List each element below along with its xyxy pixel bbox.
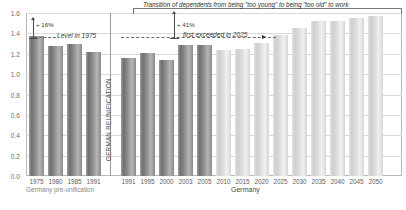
x-tick-2040: 2040 bbox=[330, 178, 344, 185]
gridline bbox=[26, 135, 402, 136]
x-tick-2000: 2000 bbox=[159, 178, 173, 185]
bar-1980 bbox=[48, 46, 63, 176]
gridline bbox=[26, 95, 402, 96]
pct-right-label: + 41% bbox=[177, 21, 195, 28]
x-tick-1991-pre: 1991 bbox=[86, 178, 100, 185]
bar-2040 bbox=[330, 21, 345, 176]
x-tick-2030: 2030 bbox=[292, 178, 306, 185]
arrow-right-stem bbox=[174, 14, 175, 38]
x-tick-2045: 2045 bbox=[349, 178, 363, 185]
arrow-right-cap bbox=[170, 38, 179, 39]
transition-bracket bbox=[133, 8, 402, 14]
x-tick-1980: 1980 bbox=[48, 178, 62, 185]
x-tick-2035: 2035 bbox=[311, 178, 325, 185]
x-tick-2005: 2005 bbox=[197, 178, 211, 185]
gridline bbox=[26, 54, 402, 55]
x-tick-2003: 2003 bbox=[178, 178, 192, 185]
x-axis-label-germany: Germany bbox=[231, 186, 260, 193]
x-tick-2015: 2015 bbox=[235, 178, 249, 185]
y-tick-label: 0.6 bbox=[0, 111, 20, 118]
bar-2010 bbox=[216, 50, 231, 176]
bar-2025 bbox=[273, 35, 288, 176]
gridline bbox=[26, 156, 402, 157]
y-tick-label: 1.6 bbox=[0, 10, 20, 17]
y-tick-label: 0.0 bbox=[0, 173, 20, 180]
x-tick-1991: 1991 bbox=[121, 178, 135, 185]
bar-1975 bbox=[29, 36, 44, 176]
x-tick-1975: 1975 bbox=[29, 178, 43, 185]
bar-2005 bbox=[197, 45, 212, 176]
y-tick-label: 0.2 bbox=[0, 152, 20, 159]
bar-2015 bbox=[235, 49, 250, 176]
bar-1985 bbox=[67, 44, 82, 176]
bar-2045 bbox=[349, 18, 364, 176]
arrow-right-2025-icon bbox=[262, 35, 266, 39]
arrow-left-cap bbox=[29, 38, 38, 39]
bar-1995 bbox=[140, 53, 155, 176]
level-1975-label: Level in 1975 bbox=[57, 32, 96, 39]
pct-left-label: + 16% bbox=[36, 21, 54, 28]
bar-1991-pre bbox=[86, 52, 101, 176]
first-exceeded-label: first exceeded in 2025 bbox=[183, 31, 248, 38]
y-tick-label: 1.0 bbox=[0, 71, 20, 78]
x-tick-1985: 1985 bbox=[67, 178, 81, 185]
bar-2035 bbox=[311, 21, 326, 176]
y-tick-label: 0.4 bbox=[0, 132, 20, 139]
bar-2000 bbox=[159, 60, 174, 176]
bar-2020 bbox=[254, 43, 269, 176]
x-tick-2010: 2010 bbox=[216, 178, 230, 185]
bar-1991 bbox=[121, 58, 136, 176]
y-tick-label: 1.4 bbox=[0, 30, 20, 37]
arrow-left-stem bbox=[33, 20, 34, 38]
x-tick-1995: 1995 bbox=[140, 178, 154, 185]
bar-2003 bbox=[178, 45, 193, 176]
x-tick-2050: 2050 bbox=[368, 178, 382, 185]
y-tick-label: 0.8 bbox=[0, 91, 20, 98]
x-tick-2025: 2025 bbox=[273, 178, 287, 185]
reunification-label: GERMAN REUNIFICATION bbox=[105, 78, 112, 161]
y-tick-label: 1.2 bbox=[0, 50, 20, 57]
chart-root: 1.6 1.4 1.2 1.0 0.8 0.6 0.4 0.2 0.0 bbox=[0, 0, 406, 210]
x-tick-2020: 2020 bbox=[254, 178, 268, 185]
gridline bbox=[26, 115, 402, 116]
bar-2050 bbox=[368, 16, 383, 176]
group-label-pre-unification: Germany pre-unification bbox=[26, 186, 94, 193]
gridline bbox=[26, 74, 402, 75]
bar-2030 bbox=[292, 28, 307, 176]
transition-note: Transition of dependents from being "too… bbox=[141, 1, 351, 8]
